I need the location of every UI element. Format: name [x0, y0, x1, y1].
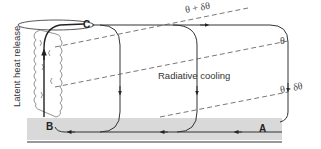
isentrope-middle-label: θ	[280, 35, 285, 46]
boundary-layer-band	[27, 118, 282, 140]
inner-loop-1	[100, 25, 120, 132]
latent-heat-release-label: Latent heat release	[11, 26, 22, 107]
radiative-cooling-label: Radiative cooling	[158, 70, 230, 81]
isentrope-lower	[160, 92, 288, 117]
point-b-label: B	[46, 121, 53, 132]
point-c-label: C	[83, 19, 90, 30]
point-a-label: A	[259, 123, 266, 134]
convective-cloud-tower	[18, 20, 94, 117]
